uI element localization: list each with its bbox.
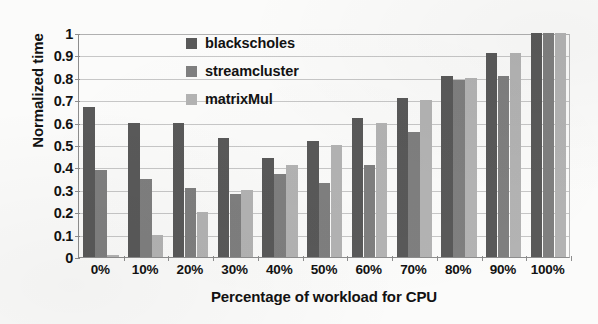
bar-matrixMul-80% — [465, 78, 476, 257]
bar-blackscholes-80% — [441, 76, 452, 257]
x-axis-tick-label: 60% — [356, 262, 382, 277]
x-axis-tick-label: 10% — [132, 262, 158, 277]
chart-figure: Normalized time 00.10.20.30.40.50.60.70.… — [0, 0, 598, 324]
y-axis-tick-label: 0.5 — [40, 138, 73, 154]
x-axis-tick-label: 100% — [531, 262, 565, 277]
x-axis-tick-label: 20% — [177, 262, 203, 277]
y-axis-tick-mark — [75, 79, 80, 80]
y-axis-tick-label: 0.7 — [40, 93, 73, 109]
y-axis-tick-mark — [75, 56, 80, 57]
x-axis-tick-label: 80% — [445, 262, 471, 277]
legend-label: streamcluster — [205, 63, 299, 79]
bar-group — [531, 34, 567, 257]
bar-matrixMul-10% — [152, 235, 163, 257]
x-axis-tick-mark — [124, 256, 125, 261]
x-axis-tick-label: 30% — [221, 262, 247, 277]
legend-item-matrixMul: matrixMul — [186, 86, 299, 112]
legend-swatch-icon — [186, 66, 197, 77]
bar-group — [441, 34, 477, 257]
y-axis-tick-mark — [75, 34, 80, 35]
bar-streamcluster-60% — [364, 165, 375, 257]
bar-streamcluster-70% — [408, 132, 419, 257]
legend-item-blackscholes: blackscholes — [186, 30, 299, 56]
y-axis-tick-mark — [75, 124, 80, 125]
plot-area — [78, 34, 570, 258]
y-axis-tick-mark — [75, 213, 80, 214]
x-axis-tick-labels: 0%10%20%30%40%50%60%70%80%90%100% — [78, 262, 570, 284]
x-axis-tick-mark — [482, 256, 483, 261]
y-axis-tick-label: 1 — [40, 26, 73, 42]
x-axis-tick-mark — [526, 256, 527, 261]
legend-swatch-icon — [186, 94, 197, 105]
y-axis-tick-mark — [75, 236, 80, 237]
y-axis-tick-mark — [75, 101, 80, 102]
bar-matrixMul-50% — [331, 145, 342, 257]
bar-blackscholes-60% — [352, 118, 363, 257]
bar-blackscholes-10% — [128, 123, 139, 257]
bar-streamcluster-0% — [95, 170, 106, 257]
x-axis-tick-mark — [258, 256, 259, 261]
x-axis-tick-mark — [168, 256, 169, 261]
y-axis-tick-label: 0.2 — [40, 205, 73, 221]
bar-streamcluster-90% — [498, 76, 509, 257]
x-axis-tick-mark — [571, 256, 572, 261]
y-axis-tick-mark — [75, 191, 80, 192]
bar-group — [128, 34, 164, 257]
y-axis-tick-mark — [75, 168, 80, 169]
bar-matrixMul-20% — [197, 212, 208, 257]
bar-blackscholes-20% — [173, 123, 184, 257]
bar-matrixMul-0% — [107, 255, 118, 257]
y-axis-tick-label: 0.9 — [40, 48, 73, 64]
bar-matrixMul-40% — [286, 165, 297, 257]
x-axis-tick-label: 90% — [490, 262, 516, 277]
legend-label: matrixMul — [205, 91, 273, 107]
y-axis-tick-mark — [75, 258, 80, 259]
x-axis-tick-label: 0% — [91, 262, 110, 277]
x-axis-tick-label: 40% — [266, 262, 292, 277]
bar-group — [307, 34, 343, 257]
x-axis-tick-label: 50% — [311, 262, 337, 277]
bar-group — [486, 34, 522, 257]
y-axis-tick-label: 0 — [40, 250, 73, 266]
bar-blackscholes-50% — [307, 141, 318, 257]
bar-matrixMul-30% — [241, 190, 252, 257]
bar-blackscholes-30% — [218, 138, 229, 257]
bar-blackscholes-90% — [486, 53, 497, 257]
bar-matrixMul-70% — [420, 100, 431, 257]
y-axis-tick-label: 0.6 — [40, 116, 73, 132]
bar-streamcluster-100% — [543, 33, 554, 257]
y-axis-tick-label: 0.1 — [40, 228, 73, 244]
legend-label: blackscholes — [205, 35, 295, 51]
legend-swatch-icon — [186, 38, 197, 49]
x-axis-tick-mark — [347, 256, 348, 261]
y-axis-tick-label: 0.8 — [40, 71, 73, 87]
bar-group — [352, 34, 388, 257]
legend-item-streamcluster: streamcluster — [186, 58, 299, 84]
bar-streamcluster-40% — [274, 174, 285, 257]
bar-streamcluster-80% — [453, 80, 464, 257]
bar-streamcluster-10% — [140, 179, 151, 257]
bar-matrixMul-60% — [376, 123, 387, 257]
y-axis-tick-label: 0.3 — [40, 183, 73, 199]
y-axis-tick-mark — [75, 146, 80, 147]
bar-blackscholes-100% — [531, 33, 542, 257]
bar-matrixMul-90% — [510, 53, 521, 257]
x-axis-tick-label: 70% — [400, 262, 426, 277]
bar-blackscholes-0% — [83, 107, 94, 257]
bar-blackscholes-40% — [262, 158, 273, 257]
x-axis-title: Percentage of workload for CPU — [78, 288, 570, 305]
bar-group — [397, 34, 433, 257]
x-axis-tick-mark — [437, 256, 438, 261]
x-axis-tick-mark — [392, 256, 393, 261]
x-axis-tick-mark — [213, 256, 214, 261]
bar-group — [83, 34, 119, 257]
y-axis-tick-labels: 00.10.20.30.40.50.60.70.80.91 — [40, 34, 73, 258]
x-axis-tick-mark — [303, 256, 304, 261]
bar-streamcluster-50% — [319, 183, 330, 257]
y-axis-tick-label: 0.4 — [40, 160, 73, 176]
bar-blackscholes-70% — [397, 98, 408, 257]
bar-streamcluster-30% — [230, 194, 241, 257]
chart-legend: blackscholesstreamclustermatrixMul — [186, 30, 299, 114]
bar-matrixMul-100% — [555, 33, 566, 257]
bar-streamcluster-20% — [185, 188, 196, 257]
